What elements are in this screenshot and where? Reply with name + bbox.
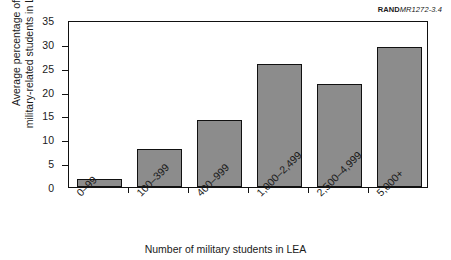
x-axis-tick-labels: 0–99100–399400–9991,000–2,4992,500–4,999… <box>68 190 448 250</box>
y-axis-tick-label: 10 <box>42 135 54 145</box>
plot-area <box>68 21 428 188</box>
y-axis-tick-label: 0 <box>48 183 54 193</box>
y-axis-tick-mark <box>62 141 69 142</box>
y-axis-tick-mark <box>62 46 69 47</box>
y-axis-tick-label: 5 <box>48 159 54 169</box>
y-axis-tick-mark <box>62 117 69 118</box>
figure: RANDMR1272-3.4 Average percentage of mil… <box>0 0 451 260</box>
figure-credit: RANDMR1272-3.4 <box>378 5 442 14</box>
y-axis-tick-label: 15 <box>42 111 54 121</box>
bar-series <box>69 22 427 187</box>
y-axis-tick-mark <box>62 70 69 71</box>
x-axis-title: Number of military students in LEA <box>0 243 451 255</box>
y-axis-tick-label: 35 <box>42 16 54 26</box>
bar <box>377 47 422 187</box>
y-axis-tick-label: 30 <box>42 40 54 50</box>
y-axis-tick-mark <box>62 165 69 166</box>
y-axis-tick-label: 25 <box>42 64 54 74</box>
y-axis-tick-mark <box>62 94 69 95</box>
y-axis-tick-label: 20 <box>42 88 54 98</box>
credit-document: MR1272-3.4 <box>400 5 442 14</box>
credit-organization: RAND <box>378 5 400 14</box>
y-axis-tick-labels: 05101520253035 <box>0 21 64 188</box>
